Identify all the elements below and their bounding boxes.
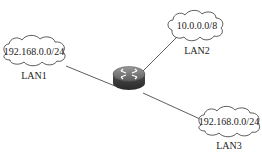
network-diagram: 192.168.0.0/24 LAN1 10.0.0.0/8 LAN2 192.… bbox=[0, 0, 262, 157]
router bbox=[113, 67, 145, 91]
network-cloud-lan3: 192.168.0.0/24 LAN3 bbox=[199, 106, 260, 151]
network-cloud-lan1: 192.168.0.0/24 LAN1 bbox=[4, 35, 65, 81]
subnet-label: 192.168.0.0/24 bbox=[199, 116, 259, 127]
subnet-label: 10.0.0.0/8 bbox=[177, 20, 217, 31]
link-router-lan1 bbox=[66, 66, 115, 86]
link-router-lan3 bbox=[143, 93, 200, 119]
lan-name-label: LAN1 bbox=[21, 70, 47, 81]
router-top bbox=[113, 67, 145, 82]
lan-name-label: LAN3 bbox=[216, 140, 242, 151]
lan-name-label: LAN2 bbox=[184, 45, 210, 56]
network-cloud-lan2: 10.0.0.0/8 LAN2 bbox=[168, 10, 223, 56]
subnet-label: 192.168.0.0/24 bbox=[4, 46, 64, 57]
